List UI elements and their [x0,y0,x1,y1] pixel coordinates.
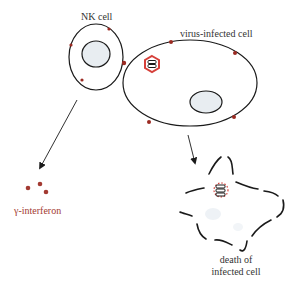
dying-cell [180,157,284,251]
death-label-line2: infected cell [202,266,270,277]
gamma-interferon-label: γ-interferon [14,205,61,216]
virus-infected-cell [122,40,257,126]
nk-cell-label: NK cell [81,11,112,22]
virus-icon [145,56,159,72]
death-label-line1: death of [210,254,262,265]
virus-infected-cell-label: virus-infected cell [180,28,252,39]
infected-nucleus [190,91,222,113]
arrow-to-death [188,135,195,163]
interferon-molecules [26,182,49,195]
arrow-to-interferon [40,100,77,168]
diagram-canvas [0,0,303,288]
fragmented-virus-icon [214,183,228,197]
nk-cell [69,24,123,90]
nk-nucleus [82,41,110,67]
